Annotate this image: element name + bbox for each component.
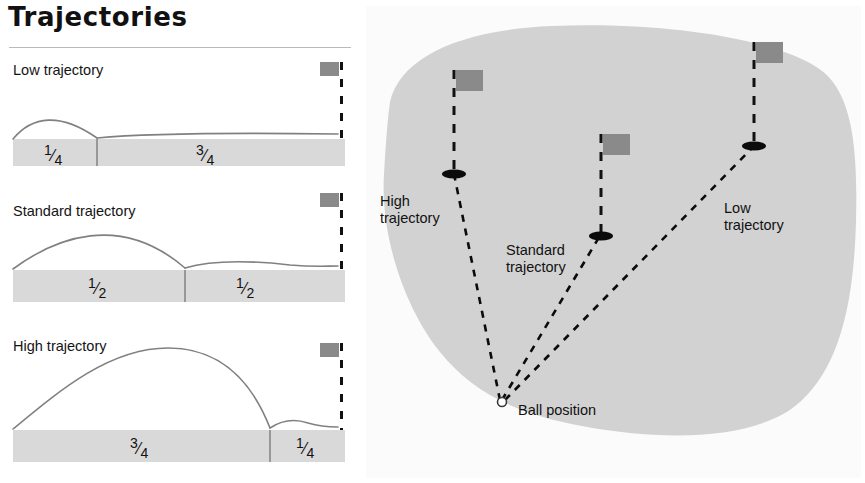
- green-label-high: High trajectory: [380, 193, 440, 227]
- flag-cloth-icon-standard: [603, 134, 630, 155]
- green-surface: [384, 25, 857, 435]
- ball-position-label: Ball position: [518, 402, 596, 419]
- hole-marker-standard: [589, 232, 613, 241]
- roll-path: [270, 421, 338, 428]
- flag-cloth-icon-low: [756, 42, 783, 63]
- green-plan-graphic: [366, 6, 861, 478]
- roll-fraction-high: 1⁄4: [296, 435, 314, 461]
- flag-cloth-icon: [320, 343, 339, 357]
- green-label-standard: Standard trajectory: [506, 242, 566, 276]
- flight-path: [13, 348, 270, 429]
- ball-marker: [498, 398, 507, 407]
- carry-fraction-high: 3⁄4: [130, 435, 148, 461]
- hole-marker-high: [442, 170, 466, 179]
- trajectory-panel-high-graphic: [0, 0, 360, 483]
- green-plan-view: High trajectory Standard trajectory Low …: [366, 6, 861, 478]
- figure-root: Trajectories Low trajectory 1⁄4: [0, 0, 865, 483]
- hole-marker-low: [742, 142, 766, 151]
- flag-cloth-icon-high: [456, 70, 483, 91]
- green-label-low: Low trajectory: [724, 200, 784, 234]
